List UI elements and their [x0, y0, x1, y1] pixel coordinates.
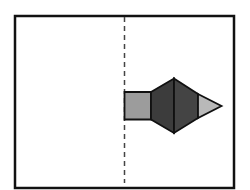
triangle-shape [198, 94, 222, 118]
hexagon-left-half [151, 79, 174, 134]
diagram-canvas [0, 0, 250, 190]
hexagon-right-half [174, 79, 198, 134]
square-shape [125, 92, 152, 120]
